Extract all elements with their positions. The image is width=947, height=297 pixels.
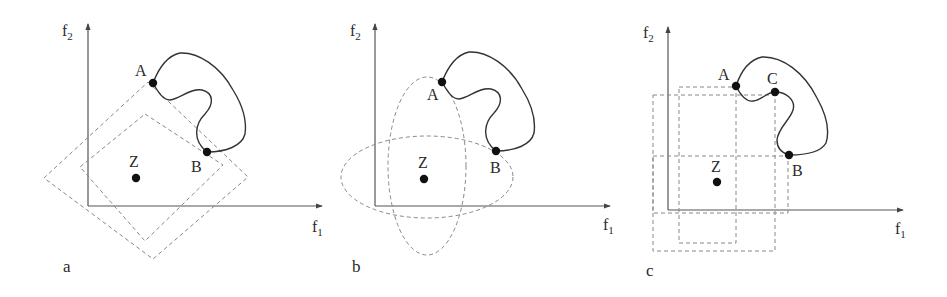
panel-c-point-b: [785, 151, 793, 159]
panel-b-y-axis-label: f2: [350, 22, 361, 42]
panel-a-label-a: A: [135, 62, 147, 79]
panel-a-label-z: Z: [129, 153, 139, 170]
panel-c-y-axis-label: f2: [643, 24, 654, 44]
panel-c: f2 f1 A C B Z c: [643, 24, 906, 280]
panel-a-point-a: [149, 79, 157, 87]
panel-b-pareto-front: [442, 52, 535, 151]
panel-a: f2 f1 A B Z a: [44, 22, 323, 276]
panel-a-caption: a: [63, 257, 71, 276]
panel-b-point-b: [492, 147, 500, 155]
panel-c-x-axis-label: f1: [895, 220, 906, 240]
panel-b-point-z: [420, 175, 428, 183]
panel-b-label-z: Z: [418, 154, 428, 171]
panel-c-point-a: [732, 82, 740, 90]
panel-a-x-axis-label: f1: [312, 218, 323, 238]
panel-c-label-b: B: [792, 162, 803, 179]
panel-b-label-b: B: [490, 159, 501, 176]
panel-c-point-c: [771, 88, 779, 96]
panel-a-y-axis-label: f2: [62, 22, 73, 42]
panel-c-rect-a: [679, 87, 736, 243]
panel-c-pareto-front: [736, 57, 828, 155]
panel-c-label-a: A: [718, 66, 730, 83]
panel-b-point-a: [438, 78, 446, 86]
panel-b-label-a: A: [427, 86, 439, 103]
panel-b-caption: b: [352, 257, 361, 276]
panel-c-caption: c: [646, 261, 654, 280]
panel-c-label-c: C: [767, 70, 778, 87]
figure-canvas: f2 f1 A B Z a f2 f1 A B Z b f2: [0, 0, 947, 297]
panel-a-point-z: [132, 174, 140, 182]
panel-a-point-b: [203, 148, 211, 156]
panel-c-point-z: [713, 178, 721, 186]
panel-b: f2 f1 A B Z b: [341, 22, 614, 276]
panel-b-x-axis-label: f1: [603, 216, 614, 236]
panel-a-label-b: B: [191, 158, 202, 175]
panel-c-label-z: Z: [711, 158, 721, 175]
panel-a-pareto-front: [153, 53, 246, 152]
